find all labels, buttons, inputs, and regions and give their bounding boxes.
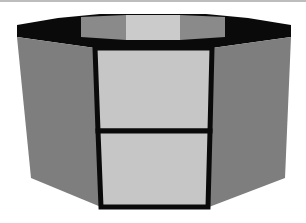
octagonal-prism-figure: [0, 0, 306, 223]
left-side-face: [17, 37, 101, 207]
interior-right-face: [180, 15, 225, 40]
front-lower-face: [98, 131, 210, 207]
interior-back-face: [126, 15, 180, 40]
interior-left-face: [81, 15, 126, 40]
front-upper-face: [95, 48, 212, 131]
right-side-face: [209, 37, 291, 207]
